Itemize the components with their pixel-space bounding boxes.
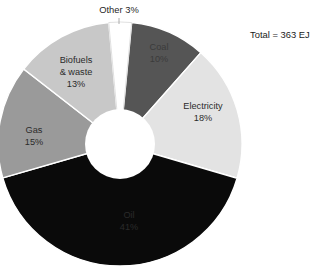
- slice-label-oil-name: Oil: [123, 210, 134, 220]
- donut-chart: Coal 10% Electricity 18% Oil 41% Gas 15%…: [0, 0, 322, 274]
- slice-label-biofuels-value: 13%: [67, 79, 85, 89]
- slice-label-electricity-value: 18%: [194, 113, 212, 123]
- total-annotation: Total = 363 EJ: [250, 29, 310, 40]
- slice-label-gas-value: 15%: [25, 137, 43, 147]
- slice-label-biofuels-name: Biofuels: [60, 55, 93, 65]
- slice-label-biofuels-name-2: & waste: [60, 67, 93, 77]
- slice-label-coal-name: Coal: [150, 42, 169, 52]
- slice-label-other: Other 3%: [99, 4, 139, 15]
- slice-label-electricity-name: Electricity: [183, 101, 223, 111]
- slice-label-coal-value: 10%: [150, 54, 168, 64]
- donut-chart-svg: Coal 10% Electricity 18% Oil 41% Gas 15%…: [0, 0, 322, 274]
- slice-label-gas-name: Gas: [26, 125, 43, 135]
- slice-label-oil-value: 41%: [120, 222, 138, 232]
- donut-hole: [85, 109, 155, 179]
